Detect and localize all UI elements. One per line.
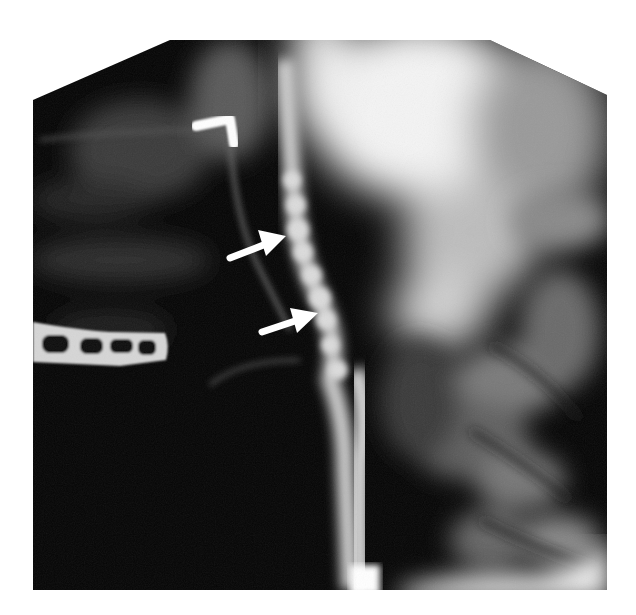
figure <box>0 0 636 615</box>
radiograph-field <box>0 0 636 615</box>
xray-image <box>0 0 636 615</box>
